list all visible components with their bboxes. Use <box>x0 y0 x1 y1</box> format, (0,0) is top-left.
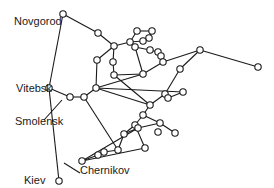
city-node <box>147 47 153 53</box>
city-node <box>95 152 101 158</box>
route-edge <box>96 88 183 92</box>
city-node <box>67 94 73 100</box>
route-edge <box>49 88 59 181</box>
city-node <box>177 66 183 72</box>
city-node <box>142 145 148 151</box>
city-node <box>95 30 101 36</box>
route-edge <box>135 47 143 74</box>
city-node <box>121 131 127 137</box>
label-novgorod: Novgorod <box>14 16 62 27</box>
city-node <box>140 112 146 118</box>
city-node <box>147 102 153 108</box>
city-node <box>160 59 166 65</box>
city-node <box>158 53 164 59</box>
city-node <box>94 57 100 63</box>
label-chernikov: Chernikov <box>80 165 130 176</box>
city-node <box>101 149 107 155</box>
label-kiev: Kiev <box>24 175 45 186</box>
label-smolensk: Smolensk <box>15 116 63 127</box>
city-node <box>135 125 141 131</box>
trade-route-network-diagram <box>0 0 274 188</box>
city-node <box>56 178 62 184</box>
route-edge <box>84 97 118 150</box>
city-node <box>111 43 117 49</box>
city-node <box>146 35 152 41</box>
city-node <box>110 59 116 65</box>
city-node <box>81 94 87 100</box>
route-edge <box>96 74 143 88</box>
city-node <box>155 129 161 135</box>
route-edge <box>200 50 258 67</box>
label-vitebsk: Vitebsk <box>16 83 52 94</box>
city-node <box>172 130 178 136</box>
city-node <box>134 28 140 34</box>
route-edge <box>63 14 98 33</box>
city-node <box>255 64 261 70</box>
route-edge <box>96 60 97 88</box>
city-node <box>140 38 146 44</box>
city-node <box>115 147 121 153</box>
city-node <box>127 39 133 45</box>
city-node <box>149 28 155 34</box>
city-node <box>111 72 117 78</box>
route-edge <box>82 128 138 161</box>
chernikov-pointer-line <box>64 163 80 173</box>
city-node <box>180 89 186 95</box>
city-node <box>140 71 146 77</box>
city-node <box>132 44 138 50</box>
city-node <box>165 95 171 101</box>
city-node <box>197 47 203 53</box>
route-edge <box>165 69 180 94</box>
city-node <box>93 85 99 91</box>
city-node <box>157 120 163 126</box>
route-edge <box>82 148 145 161</box>
